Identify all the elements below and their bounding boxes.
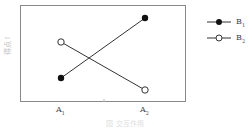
legend-label-b2: B2 (236, 33, 245, 44)
legend-b1-marker-icon (216, 19, 222, 25)
b2-point-a1 (58, 39, 64, 45)
series-b2-line (61, 42, 145, 90)
y-axis-label: 得点↑ (2, 30, 12, 60)
b1-point-a2 (142, 15, 148, 21)
x-tick-a1: A1 (56, 105, 65, 116)
figure-caption: 図 交互作用 (80, 118, 170, 128)
legend-b2-marker-icon (216, 35, 222, 41)
legend-label-b1: B1 (236, 17, 245, 28)
plot-frame (21, 6, 186, 102)
interaction-chart (0, 0, 248, 128)
b2-point-a2 (142, 87, 148, 93)
x-tick-a2: A2 (140, 105, 149, 116)
series-b1-line (61, 18, 145, 78)
b1-point-a1 (58, 75, 64, 81)
